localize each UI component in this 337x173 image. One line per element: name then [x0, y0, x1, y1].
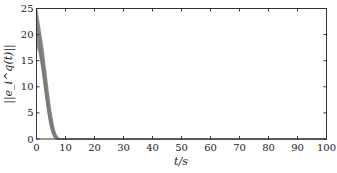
x-tick-label: 60 [204, 142, 217, 153]
x-tick-label: 100 [317, 142, 336, 153]
data-line [37, 45, 327, 139]
y-tick-label: 5 [27, 107, 33, 118]
y-axis-label: ||e_i^q(t)|| [2, 44, 16, 104]
x-tick-label: 50 [175, 142, 188, 153]
data-series-group [37, 9, 327, 140]
x-tick-label: 30 [117, 142, 130, 153]
data-line [37, 19, 327, 139]
x-tick-label: 10 [59, 142, 72, 153]
x-tick-label: 0 [33, 142, 39, 153]
data-line [37, 29, 327, 139]
x-tick-label: 90 [291, 142, 304, 153]
data-line [37, 24, 327, 139]
x-tick-label: 70 [233, 142, 246, 153]
x-axis: 0102030405060708090100 [33, 9, 336, 154]
data-line [37, 35, 327, 139]
x-tick-label: 80 [262, 142, 275, 153]
y-tick-label: 10 [21, 81, 34, 92]
data-line [37, 40, 327, 139]
y-axis: 0510152025 [21, 3, 327, 145]
x-tick-label: 40 [146, 142, 159, 153]
y-tick-label: 15 [21, 55, 34, 66]
y-tick-label: 25 [21, 3, 34, 14]
plot-area-frame [37, 9, 327, 140]
x-tick-label: 20 [88, 142, 101, 153]
chart: 0102030405060708090100 0510152025 t/s ||… [0, 0, 337, 173]
data-line [37, 9, 327, 140]
data-line [37, 14, 327, 139]
y-tick-label: 0 [27, 134, 33, 145]
y-tick-label: 20 [21, 29, 34, 40]
x-axis-label: t/s [174, 155, 188, 168]
